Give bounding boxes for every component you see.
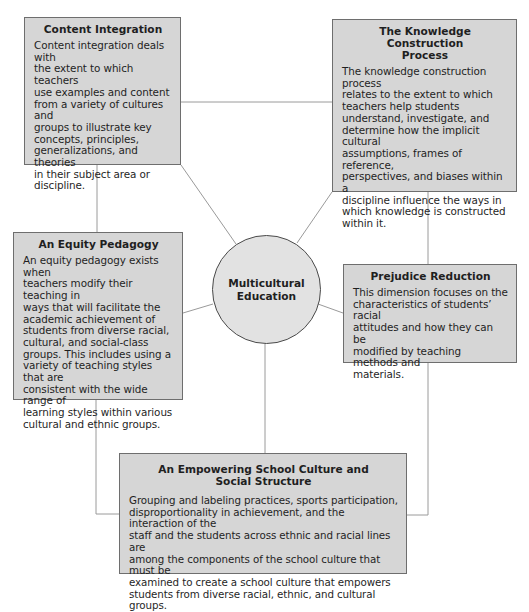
dimension-description: Content integration deals with the exten… xyxy=(34,40,172,192)
connector-prejudice-to-empowering xyxy=(407,363,428,515)
dimension-box-knowledge-construction: The Knowledge Construction Process The k… xyxy=(332,19,517,192)
dimension-title: The Knowledge Construction Process xyxy=(342,25,508,61)
connector-equity-to-center xyxy=(183,304,213,313)
dimension-title: An Empowering School Culture and Social … xyxy=(129,463,398,487)
dimension-box-equity-pedagogy: An Equity Pedagogy An equity pedagogy ex… xyxy=(13,232,183,400)
center-label: Multicultural Education xyxy=(228,277,304,302)
dimension-description: This dimension focuses on the characteri… xyxy=(353,287,508,381)
connector-center-to-prejudice xyxy=(318,304,343,313)
dimension-box-prejudice-reduction: Prejudice Reduction This dimension focus… xyxy=(343,264,517,363)
dimension-title: Prejudice Reduction xyxy=(353,270,508,282)
center-node-multicultural-education: Multicultural Education xyxy=(212,235,321,344)
dimension-title: Content Integration xyxy=(34,23,172,35)
connector-content-to-center xyxy=(181,165,236,244)
dimension-title: An Equity Pedagogy xyxy=(23,238,174,250)
cropped-figure-caption xyxy=(10,581,340,585)
dimension-description: An equity pedagogy exists when teachers … xyxy=(23,255,174,431)
connector-knowledge-to-center xyxy=(297,192,332,243)
dimension-description: The knowledge construction process relat… xyxy=(342,66,508,230)
dimension-box-content-integration: Content Integration Content integration … xyxy=(24,17,181,165)
dimension-description: Grouping and labeling practices, sports … xyxy=(129,495,398,612)
dimension-box-empowering-school-culture: An Empowering School Culture and Social … xyxy=(119,453,407,574)
